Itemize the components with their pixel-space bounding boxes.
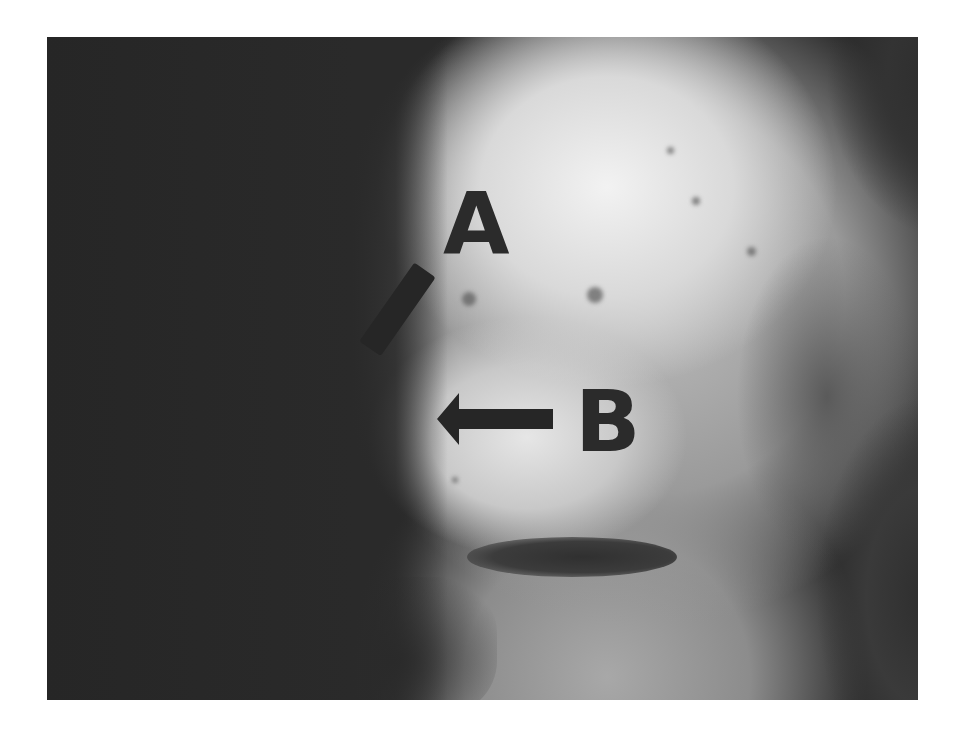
skin-spot [667, 147, 674, 154]
skin-spot [747, 247, 756, 256]
skin-spot [452, 477, 458, 483]
skin-spot [692, 197, 700, 205]
clinical-photo [47, 37, 918, 700]
skin-spot [462, 292, 476, 306]
mouth-opening [467, 537, 677, 577]
chin-shadow [347, 577, 497, 700]
label-a: A [443, 180, 509, 266]
skin-spot [587, 287, 603, 303]
arrow-left-icon [437, 393, 553, 445]
label-b: B [575, 378, 640, 464]
